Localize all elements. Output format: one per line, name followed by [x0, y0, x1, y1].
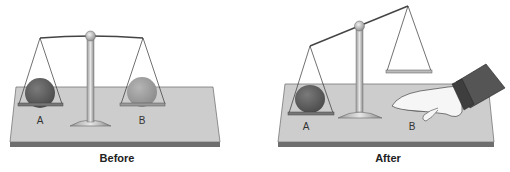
label-b: B [409, 121, 416, 132]
clay-ball-a [295, 85, 325, 113]
after-panel [278, 6, 505, 147]
pan-a [288, 112, 334, 115]
pivot [355, 21, 365, 31]
pan-b [120, 103, 165, 106]
before-panel [10, 31, 220, 147]
caption-before: Before [100, 152, 135, 164]
pan-b-empty [386, 70, 432, 73]
balance-diagram [0, 0, 510, 172]
stand-column [356, 28, 363, 112]
board-edge [10, 142, 220, 147]
board-edge [278, 142, 494, 147]
clay-ball-b [127, 77, 157, 107]
label-a: A [37, 115, 44, 126]
pan-a [18, 103, 63, 106]
caption-after: After [375, 152, 401, 164]
label-b: B [139, 115, 146, 126]
pivot [86, 31, 96, 41]
label-a: A [303, 121, 310, 132]
stand-column [87, 38, 94, 122]
